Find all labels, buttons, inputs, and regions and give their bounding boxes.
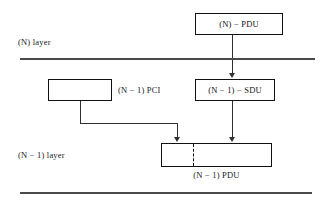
box-n-pdu-label: (N) − PDU [219, 19, 259, 29]
layer-label-n: (N) layer [18, 37, 51, 47]
layer-divider-top [20, 58, 315, 60]
arrowhead-pci-to-pdu [174, 137, 180, 142]
box-n-pdu: (N) − PDU [195, 13, 283, 35]
pdu-internal-divider [193, 144, 194, 166]
connector-sdu-to-pdu [232, 101, 233, 138]
box-n1-sdu-label: (N − 1) − SDU [208, 85, 262, 95]
caption-n1-pdu: (N − 1) PDU [161, 170, 272, 180]
arrowhead-sdu-to-pdu [229, 137, 235, 142]
diagram-canvas: (N) − PDU (N) layer (N − 1) PCI (N − 1) … [0, 0, 333, 203]
label-n1-pci: (N − 1) PCI [118, 85, 161, 95]
connector-pci-segment-down1 [80, 101, 81, 124]
box-n1-pci [48, 79, 112, 101]
layer-label-n-minus-1: (N − 1) layer [18, 150, 65, 160]
connector-pci-segment-right [80, 123, 178, 124]
connector-npdu-to-sdu [232, 35, 233, 74]
box-n1-pdu [161, 143, 272, 167]
layer-divider-bottom [20, 192, 312, 194]
arrowhead-npdu-to-sdu [229, 73, 235, 78]
box-n1-sdu: (N − 1) − SDU [195, 79, 275, 101]
